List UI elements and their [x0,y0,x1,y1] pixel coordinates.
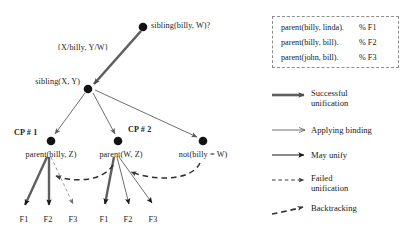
leaf-label-f3-right: F3 [149,215,158,224]
legend-label-line1: Backtracking [311,203,357,213]
backtrack-arc-not-to-cp2 [131,163,200,178]
fact-text-2: parent(billy, bill). [281,38,338,47]
fact-text-3: parent(john, bill). [281,53,339,62]
choicepoint-label-2: CP # 2 [128,125,151,134]
edge-sibling-to-cp1 [55,93,85,134]
choicepoint-label-1: CP # 1 [14,128,37,137]
legend-sample-backtracking [272,207,303,214]
edge-cp1-to-f1 [25,157,47,205]
node-label-cp2: parent(W, Z) [99,150,142,159]
node-root-dot [139,23,148,32]
legend-label-line1: May unify [311,150,347,160]
fact-comment-2: % F2 [359,38,377,47]
node-label-root: sibling(billy, W)? [151,21,210,30]
backtrack-arc-cp2-to-cp1 [56,165,113,180]
fact-comment-3: % F3 [359,53,377,62]
leaf-label-f2-left: F2 [44,215,53,224]
node-sibling-dot [84,85,93,94]
legend-label-line1: Applying binding [311,125,372,135]
binding-substitution-label: {X/billy, Y/W} [57,43,109,52]
legend-item-backtracking: Backtracking [311,203,357,213]
edge-cp2-to-f3 [119,157,152,203]
leaf-label-f3-left: F3 [69,215,78,224]
node-label-cp1: parent(billy, Z) [25,150,76,159]
node-not-dot [199,137,208,146]
legend-item-applying-binding: Applying binding [311,125,372,135]
legend-label-line2: unification [311,98,348,108]
facts-box: parent(billy, linda). % F1 parent(billy,… [272,16,399,68]
edge-sibling-to-cp2 [93,93,115,134]
leaf-label-f2-right: F2 [124,215,133,224]
fact-comment-1: % F1 [359,23,377,32]
node-cp2-dot [114,137,123,146]
edge-cp2-to-f1 [105,157,114,204]
edge-cp2-to-f2 [117,157,129,204]
legend-item-failed-unification: Failed unification [311,173,348,193]
legend-label-line2: unification [311,183,348,193]
node-label-sibling: sibling(X, Y) [35,77,80,86]
diagram-canvas: sibling(billy, W)? sibling(X, Y) parent(… [0,0,405,237]
node-label-not: not(billy = W) [179,150,228,159]
legend-item-successful-unification: Successful unification [311,88,348,108]
leaf-label-f1-left: F1 [20,215,29,224]
legend-label-line1: Successful [311,88,348,98]
legend-item-may-unify: May unify [311,150,347,160]
edge-cp1-to-f3 [51,157,73,204]
node-cp1-dot [47,137,56,146]
edge-root-to-sibling [94,31,141,84]
fact-text-1: parent(billy, linda). [281,23,344,32]
legend-label-line1: Failed [311,173,348,183]
leaf-label-f1-right: F1 [100,215,109,224]
